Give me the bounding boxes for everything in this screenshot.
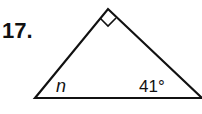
- angle-41-label: 41°: [139, 77, 165, 96]
- triangle-diagram: n 41°: [0, 0, 202, 114]
- angle-n-label: n: [56, 76, 66, 96]
- right-angle-marker-icon: [100, 18, 116, 26]
